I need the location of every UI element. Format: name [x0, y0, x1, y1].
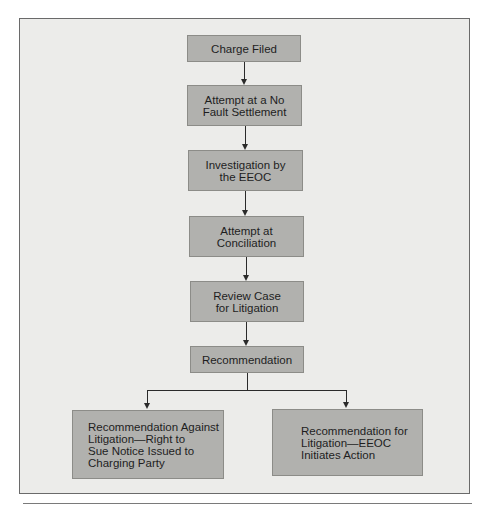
node-charge-filed: Charge Filed [187, 35, 301, 62]
node-review-case: Review Case for Litigation [190, 281, 304, 322]
node-label: Recommendation for Litigation—EEOC Initi… [301, 425, 408, 461]
node-label: Recommendation [202, 354, 292, 366]
arrow-down-icon [242, 210, 248, 216]
arrow-down-icon [243, 275, 249, 281]
node-no-fault-settlement: Attempt at a No Fault Settlement [187, 85, 302, 126]
node-label: Investigation by the EEOC [206, 159, 286, 183]
arrow-down-icon [241, 79, 247, 85]
arrow-down-icon [343, 402, 349, 408]
connector [246, 322, 247, 340]
arrow-down-icon [242, 144, 248, 150]
arrow-down-icon [144, 403, 150, 409]
node-label: Attempt at Conciliation [217, 225, 276, 249]
node-conciliation: Attempt at Conciliation [189, 216, 304, 257]
connector-horizontal [147, 390, 347, 391]
node-label: Recommendation Against Litigation—Right … [88, 421, 219, 469]
arrow-down-icon [243, 340, 249, 346]
connector [147, 390, 148, 404]
node-investigation: Investigation by the EEOC [188, 150, 303, 191]
node-recommendation-for: Recommendation for Litigation—EEOC Initi… [272, 409, 423, 476]
node-recommendation-against: Recommendation Against Litigation—Right … [72, 410, 224, 479]
node-label: Attempt at a No Fault Settlement [203, 94, 287, 118]
connector [245, 191, 246, 210]
node-recommendation: Recommendation [190, 346, 304, 373]
connector [246, 257, 247, 275]
connector [245, 126, 246, 144]
bottom-rule [23, 503, 472, 504]
connector [247, 373, 248, 390]
node-label: Review Case for Litigation [213, 290, 281, 314]
node-label: Charge Filed [211, 43, 277, 55]
connector [244, 62, 245, 79]
